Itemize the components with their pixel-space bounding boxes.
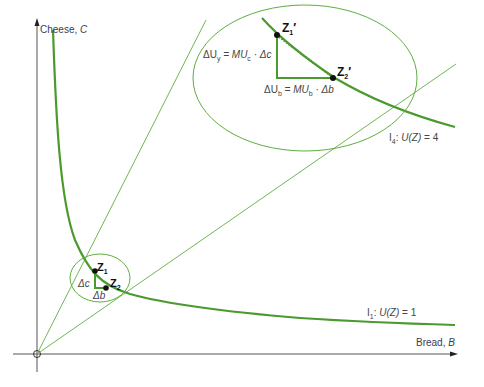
z1-label: Z1: [97, 262, 108, 275]
i1-func: U(Z): [379, 307, 399, 318]
i1-value: = 1: [399, 307, 416, 318]
delta-ub-left: ΔU: [264, 84, 278, 95]
delta-c-text: Δc: [78, 278, 90, 289]
delta-ub-equation: ΔUb = MUb · Δb: [264, 85, 334, 97]
delta-ub-mid: = MU: [282, 84, 309, 95]
i4-label: I4: U(Z) = 4: [389, 133, 438, 145]
z2p-prime: ′: [348, 65, 351, 79]
delta-uy-left: ΔU: [203, 49, 217, 60]
delta-ub-right: · Δb: [313, 84, 334, 95]
x-axis-label: Bread, B: [416, 338, 455, 348]
y-axis-label: Cheese, C: [40, 25, 87, 35]
z2-sub: 2: [117, 284, 121, 291]
y-axis-arrow-icon: [35, 18, 40, 26]
z2-text: Z: [110, 277, 117, 289]
z1-sub: 1: [104, 268, 108, 275]
delta-uy-equation: ΔUy = MUc · Δc: [203, 50, 271, 62]
i1-label: I1: U(Z) = 1: [367, 308, 416, 320]
z1-prime-label: Z1′: [282, 22, 296, 36]
i4-sub: 4: [392, 138, 396, 145]
delta-c-label: Δc: [78, 279, 90, 289]
delta-b-text: Δb: [93, 290, 105, 301]
i1-sub: 1: [370, 313, 374, 320]
delta-uy-mid: = MU: [220, 49, 247, 60]
z1-text: Z: [97, 261, 104, 273]
x-axis-label-text: Bread,: [416, 337, 448, 348]
z1p-prime: ′: [293, 21, 296, 35]
i4-func: U(Z): [401, 132, 421, 143]
delta-uy-right: · Δc: [251, 49, 272, 60]
i4-value: = 4: [421, 132, 438, 143]
y-axis-variable: C: [80, 24, 87, 35]
point-z2-prime: [330, 75, 336, 81]
x-axis-variable: B: [448, 337, 455, 348]
y-axis-label-text: Cheese,: [40, 24, 80, 35]
point-z1-prime: [274, 32, 280, 38]
delta-b-label: Δb: [93, 291, 105, 301]
x-axis-arrow-icon: [450, 352, 458, 357]
z2-label: Z2: [110, 278, 121, 291]
z2-prime-label: Z2′: [337, 66, 351, 80]
